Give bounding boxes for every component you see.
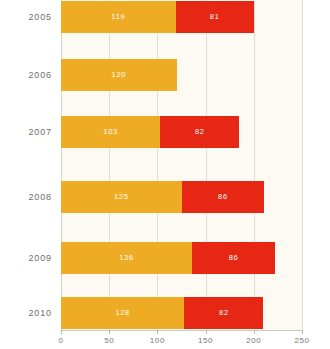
gridline-0: [61, 0, 62, 330]
chart-row: 201012882: [0, 296, 330, 330]
category-label-2010: 2010: [0, 296, 52, 330]
bar-segment-series-2-2010[interactable]: 82: [184, 297, 263, 329]
gridline-100: [157, 0, 158, 330]
bar-segment-series-1-2009[interactable]: 136: [61, 242, 192, 274]
tick-mark-250: [302, 330, 303, 334]
chart-row: 200511981: [0, 0, 330, 34]
gridline-200: [254, 0, 255, 330]
bar-segment-series-2-2008[interactable]: 86: [182, 181, 265, 213]
category-label-2009: 2009: [0, 241, 52, 275]
gridline-150: [206, 0, 207, 330]
x-tick-label-250: 250: [287, 336, 317, 345]
x-tick-label-150: 150: [191, 336, 221, 345]
bar-segment-series-1-2006[interactable]: 120: [61, 59, 177, 91]
x-tick-label-0: 0: [46, 336, 76, 345]
category-label-2006: 2006: [0, 58, 52, 92]
tick-mark-200: [254, 330, 255, 334]
stacked-bar: 12586: [61, 181, 264, 213]
category-label-2008: 2008: [0, 180, 52, 214]
category-label-2005: 2005: [0, 0, 52, 34]
gridline-50: [109, 0, 110, 330]
chart-row: 200913686: [0, 241, 330, 275]
chart-row: 2006120: [0, 58, 330, 92]
bar-value-label: 86: [182, 181, 265, 213]
bar-segment-series-2-2009[interactable]: 86: [192, 242, 275, 274]
category-label-2007: 2007: [0, 115, 52, 149]
tick-mark-50: [109, 330, 110, 334]
chart-row: 200710382: [0, 115, 330, 149]
stacked-bar: 10382: [61, 116, 239, 148]
gridline-250: [302, 0, 303, 330]
x-tick-label-50: 50: [94, 336, 124, 345]
bar-value-label: 128: [61, 297, 184, 329]
stacked-bar: 120: [61, 59, 177, 91]
bar-segment-series-1-2010[interactable]: 128: [61, 297, 184, 329]
bar-value-label: 82: [160, 116, 239, 148]
x-tick-label-100: 100: [142, 336, 172, 345]
bar-value-label: 119: [61, 1, 176, 33]
stacked-bar: 11981: [61, 1, 254, 33]
bar-value-label: 82: [184, 297, 263, 329]
tick-mark-100: [157, 330, 158, 334]
stacked-bar: 13686: [61, 242, 275, 274]
stacked-bar-chart: 2005119812006120200710382200812586200913…: [0, 0, 330, 349]
stacked-bar: 12882: [61, 297, 263, 329]
bar-value-label: 125: [61, 181, 182, 213]
bar-value-label: 103: [61, 116, 160, 148]
bar-segment-series-1-2008[interactable]: 125: [61, 181, 182, 213]
bar-value-label: 81: [176, 1, 254, 33]
x-tick-label-200: 200: [239, 336, 269, 345]
bar-value-label: 136: [61, 242, 192, 274]
plot-area-background: [61, 0, 302, 330]
tick-mark-0: [61, 330, 62, 334]
bar-segment-series-1-2007[interactable]: 103: [61, 116, 160, 148]
tick-mark-150: [206, 330, 207, 334]
bar-segment-series-1-2005[interactable]: 119: [61, 1, 176, 33]
chart-row: 200812586: [0, 180, 330, 214]
bar-segment-series-2-2005[interactable]: 81: [176, 1, 254, 33]
x-axis-line: [61, 330, 302, 331]
bar-value-label: 120: [61, 59, 177, 91]
bar-segment-series-2-2007[interactable]: 82: [160, 116, 239, 148]
bar-value-label: 86: [192, 242, 275, 274]
